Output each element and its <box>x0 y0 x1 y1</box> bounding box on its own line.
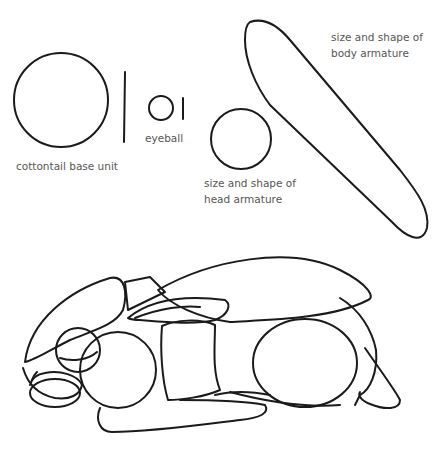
base-unit-scale-line <box>124 72 125 142</box>
rabbit-eye <box>56 328 100 372</box>
label-base-unit: cottontail base unit <box>16 158 118 174</box>
rabbit-cheek <box>80 332 156 408</box>
rabbit-back <box>158 257 371 322</box>
rabbit-neck <box>125 277 165 310</box>
head-armature-circle <box>211 109 271 169</box>
label-body-armature-line1: size and shape of <box>331 29 423 45</box>
rabbit-rump <box>340 298 376 405</box>
rabbit-nose <box>30 379 80 407</box>
label-head-armature-line1: size and shape of <box>204 175 296 191</box>
rabbit-figure <box>23 257 400 432</box>
base-unit-circle <box>14 53 108 147</box>
rabbit-shoulder <box>161 321 220 400</box>
rabbit-head-top <box>25 278 125 362</box>
rabbit-eye-lid <box>60 352 97 360</box>
diagram-canvas <box>0 0 436 453</box>
label-head-armature-line2: head armature <box>204 191 282 207</box>
eyeball-circle <box>149 96 173 120</box>
rabbit-hind-foot <box>359 348 400 408</box>
label-eyeball: eyeball <box>145 130 183 146</box>
label-body-armature-line2: body armature <box>331 45 409 61</box>
rabbit-front-paw <box>98 400 266 432</box>
